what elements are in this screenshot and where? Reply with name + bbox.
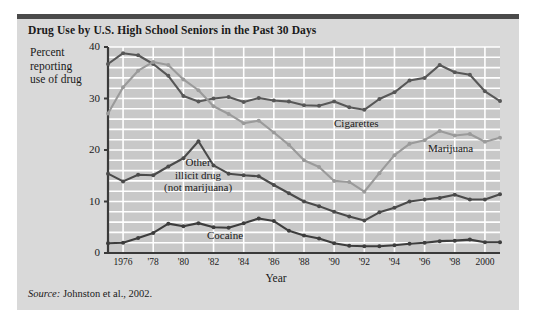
- series-label-cocaine: Cocaine: [207, 229, 243, 241]
- y-tick-0: 0: [78, 246, 100, 258]
- series-label-other-illicit-drug: Other illicit drug (not marijuana): [164, 156, 232, 194]
- x-tick-90: '90: [317, 257, 351, 267]
- x-tick-2000: 2000: [468, 257, 502, 267]
- series-label-marijuana: Marijuana: [428, 142, 473, 154]
- y-tick-30: 30: [78, 92, 100, 104]
- x-tick-88: '88: [287, 257, 321, 267]
- series-label-other-line-2: illicit drug: [164, 169, 232, 182]
- x-tick-82: '82: [197, 257, 231, 267]
- y-tick-10: 10: [78, 195, 100, 207]
- series-label-other-line-1: Other: [164, 156, 232, 169]
- x-tick-98: '98: [438, 257, 472, 267]
- x-tick-94: '94: [377, 257, 411, 267]
- source-note: Source: Johnston et al., 2002.: [28, 288, 152, 299]
- x-tick-86: '86: [257, 257, 291, 267]
- x-tick-84: '84: [227, 257, 261, 267]
- y-tick-20: 20: [78, 143, 100, 155]
- x-axis-title: Year: [265, 272, 286, 284]
- series-label-cigarettes: Cigarettes: [334, 117, 379, 129]
- x-tick-80: '80: [166, 257, 200, 267]
- x-tick-78: '78: [136, 257, 170, 267]
- x-tick-1976: 1976: [106, 257, 140, 267]
- series-label-other-line-3: (not marijuana): [164, 181, 232, 194]
- figure-page: Drug Use by U.S. High School Seniors in …: [0, 0, 535, 323]
- x-tick-92: '92: [347, 257, 381, 267]
- source-citation: Johnston et al., 2002.: [60, 288, 152, 299]
- source-label: Source:: [28, 288, 60, 299]
- y-tick-40: 40: [78, 40, 100, 52]
- x-tick-96: '96: [408, 257, 442, 267]
